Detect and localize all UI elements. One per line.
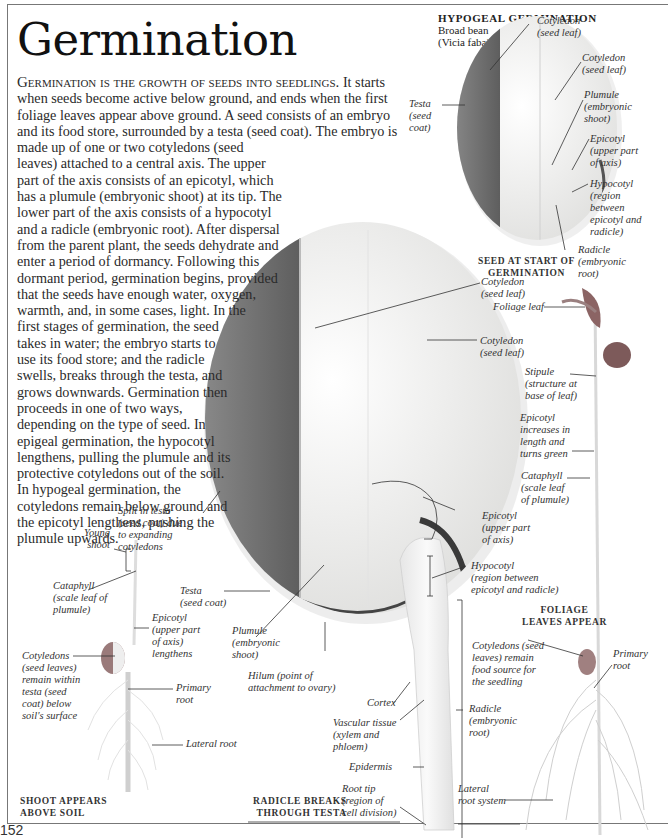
label-foliage-radicle: Radicle (embryonic root) xyxy=(469,703,517,739)
label-small-plumule: Plumule (embryonic shoot) xyxy=(584,89,632,125)
label-shoot-cotyledons: Cotyledons (seed leaves) remain within t… xyxy=(22,650,80,722)
label-large-hilum: Hilum (point of attachment to ovary) xyxy=(248,670,335,694)
label-shoot-primary-root: Primary root xyxy=(176,682,211,706)
label-foliage-leaf: Foliage leaf xyxy=(493,301,544,313)
label-small-epicotyl: Epicotyl (upper part of axis) xyxy=(590,133,638,169)
caption-foliage-appears: FOLIAGE LEAVES APPEAR xyxy=(522,604,607,628)
page-number: 152 xyxy=(0,822,23,838)
label-foliage-primary-root: Primary root xyxy=(613,648,648,672)
caption-radicle-breaks: RADICLE BREAKS THROUGH TESTA xyxy=(253,795,347,819)
label-foliage-stipule: Stipule (structure at base of leaf) xyxy=(525,366,577,402)
label-shoot-cataphyll: Cataphyll (scale leaf of plumule) xyxy=(53,580,107,616)
label-large-testa: Testa (seed coat) xyxy=(180,585,226,609)
label-shoot-young-shoot: Young shoot xyxy=(84,527,110,551)
label-shoot-lateral-root: Lateral root xyxy=(186,738,237,750)
label-foliage-epicotyl: Epicotyl increases in length and turns g… xyxy=(520,412,570,460)
label-large-vascular: Vascular tissue (xylem and phloem) xyxy=(333,717,396,753)
label-large-epicotyl: Epicotyl (upper part of axis) xyxy=(482,510,530,546)
label-foliage-cataphyll: Cataphyll (scale leaf of plumule) xyxy=(521,470,569,506)
label-shoot-epicotyl: Epicotyl (upper part of axis) lengthens xyxy=(152,612,200,660)
label-small-hypocotyl: Hypocotyl (region between epicotyl and r… xyxy=(590,178,642,238)
label-small-cotyledon-2: Cotyledon (seed leaf) xyxy=(582,52,626,76)
label-large-root-tip: Root tip (region of cell division) xyxy=(342,783,397,819)
caption-shoot-appears: SHOOT APPEARS ABOVE SOIL xyxy=(20,795,107,819)
label-large-cotyledon-1: Cotyledon (seed leaf) xyxy=(481,276,525,300)
label-large-cotyledon-2: Cotyledon (seed leaf) xyxy=(480,335,524,359)
label-foliage-lateral-root-system: Lateral root system xyxy=(458,783,506,807)
label-large-hypocotyl: Hypocotyl (region between epicotyl and r… xyxy=(471,560,558,596)
label-large-plumule: Plumule (embryonic shoot) xyxy=(232,625,280,661)
label-large-cortex: Cortex xyxy=(367,697,396,709)
label-foliage-cotyledons: Cotyledons (seed leaves) remain food sou… xyxy=(472,640,544,688)
label-small-radicle: Radicle (embryonic root) xyxy=(578,244,626,280)
shoot-seedling-illustration xyxy=(88,540,163,792)
label-small-cotyledon-1: Cotyledon (seed leaf) xyxy=(537,15,581,39)
label-large-epidermis: Epidermis xyxy=(349,761,392,773)
label-small-testa: Testa (seed coat) xyxy=(409,98,431,134)
intro-paragraph: Germination is the growth of seeds into … xyxy=(17,74,497,547)
label-large-split-testa: Split in testa (seed coat) due to expand… xyxy=(118,505,182,553)
